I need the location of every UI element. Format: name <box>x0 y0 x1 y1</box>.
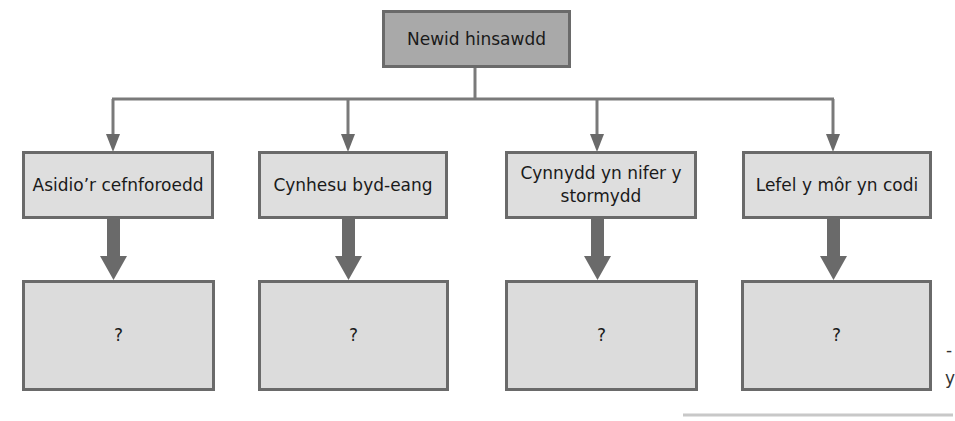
arrowhead-icon <box>590 134 604 152</box>
effect-node-sea-level-rise: Lefel y môr yn codi <box>742 151 932 219</box>
effect-node-global-warming: Cynhesu byd-eang <box>258 151 448 219</box>
thick-arrow-head-icon <box>335 256 362 280</box>
thick-arrow-shaft <box>107 218 120 258</box>
answer-box-4[interactable]: ? <box>741 280 932 391</box>
thick-arrow-head-icon <box>584 256 611 280</box>
effect-node-label: Cynhesu byd-eang <box>273 174 432 197</box>
arrowhead-icon <box>106 134 120 152</box>
thick-arrow-shaft <box>342 218 355 258</box>
root-node-label: Newid hinsawdd <box>407 28 546 51</box>
effect-node-label: Asidio’r cefnforoedd <box>33 174 204 197</box>
answer-placeholder: ? <box>349 324 358 347</box>
answer-placeholder: ? <box>597 324 606 347</box>
thick-arrow-head-icon <box>820 256 847 280</box>
thick-arrow-shaft <box>827 218 840 258</box>
cropped-text-fragment: y <box>945 368 955 388</box>
answer-placeholder: ? <box>832 324 841 347</box>
answer-box-2[interactable]: ? <box>258 280 449 391</box>
arrowhead-icon <box>826 134 840 152</box>
answer-box-1[interactable]: ? <box>22 280 215 391</box>
effect-node-storm-increase: Cynnydd yn nifer y stormydd <box>505 151 697 219</box>
arrowhead-icon <box>341 134 355 152</box>
thick-arrow-shaft <box>591 218 604 258</box>
answer-placeholder: ? <box>114 324 123 347</box>
thick-arrow-head-icon <box>100 256 127 280</box>
effect-node-label: Lefel y môr yn codi <box>756 174 919 197</box>
effect-node-label: Cynnydd yn nifer y stormydd <box>514 162 688 208</box>
answer-box-3[interactable]: ? <box>505 280 698 391</box>
cropped-text-fragment: - <box>946 340 952 360</box>
effect-node-ocean-acidification: Asidio’r cefnforoedd <box>22 151 214 219</box>
root-node-climate-change: Newid hinsawdd <box>382 10 571 68</box>
